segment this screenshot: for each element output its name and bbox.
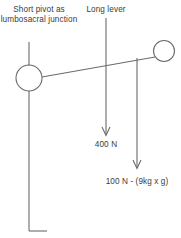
force-a-label: 400 N [66,140,146,150]
lever-diagram: Short pivot as lumbosacral junction Long… [0,0,181,238]
force-b-label: 100 N - (9kg x g) [87,177,181,187]
lever-line [42,57,155,77]
load-circle [154,41,175,62]
diagram-canvas [0,0,181,238]
pivot-circle [16,65,42,91]
lever-label: Long lever [66,5,146,15]
